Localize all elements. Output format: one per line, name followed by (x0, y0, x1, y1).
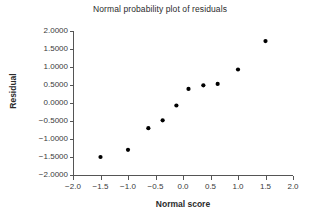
data-point (161, 118, 165, 122)
plot-area (0, 0, 320, 222)
data-point (146, 126, 150, 130)
data-point (98, 155, 102, 159)
data-points (98, 39, 267, 159)
axes (70, 31, 294, 180)
data-point (126, 148, 130, 152)
data-point (174, 103, 178, 107)
normal-probability-plot: Normal probability plot of residuals Res… (0, 0, 320, 222)
data-point (236, 67, 240, 71)
data-point (186, 87, 190, 91)
data-point (216, 82, 220, 86)
data-point (263, 39, 267, 43)
data-point (201, 83, 205, 87)
